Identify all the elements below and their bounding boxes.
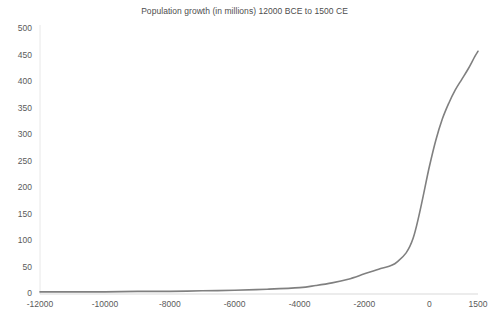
chart-container: Population growth (in millions) 12000 BC… — [0, 0, 489, 328]
population-growth-line — [40, 51, 478, 292]
plot-area — [0, 0, 489, 328]
